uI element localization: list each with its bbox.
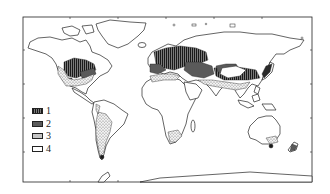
legend-swatch-blank [32, 146, 43, 152]
new-guinea [262, 104, 276, 110]
map-legend: 1 2 3 4 [32, 106, 51, 156]
legend-swatch-hatched [32, 108, 43, 114]
legend-item-1: 1 [32, 106, 51, 116]
world-map [0, 0, 330, 194]
legend-label: 3 [46, 131, 51, 141]
legend-label: 1 [46, 106, 51, 116]
legend-item-2: 2 [32, 119, 51, 129]
legend-item-4: 4 [32, 144, 51, 154]
arctic-islands-2 [82, 25, 94, 34]
philippines [254, 86, 260, 94]
legend-swatch-stippled [32, 133, 43, 139]
legend-item-3: 3 [32, 131, 51, 141]
arctic-islands [62, 26, 80, 36]
indonesia [238, 100, 254, 108]
madagascar [191, 120, 195, 132]
antarctica [140, 172, 312, 182]
legend-label: 2 [46, 119, 51, 129]
antarctic-peninsula [98, 172, 110, 182]
borneo [252, 94, 260, 102]
legend-swatch-dark [32, 121, 43, 127]
legend-label: 4 [46, 144, 51, 154]
iceland [138, 43, 146, 48]
